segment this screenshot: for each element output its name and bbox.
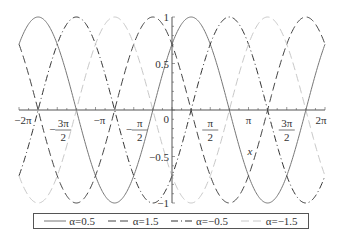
- legend-label: α=1.5: [133, 215, 159, 227]
- svg-text:−: −: [126, 123, 132, 135]
- svg-text:3π: 3π: [58, 117, 70, 129]
- legend-item: α=1.5: [108, 215, 159, 227]
- legend-item: α=0.5: [44, 215, 95, 227]
- legend-label: α=0.5: [69, 215, 95, 227]
- legend-label: α=−1.5: [266, 215, 298, 227]
- svg-text:π: π: [207, 117, 213, 129]
- svg-text:−π: −π: [94, 114, 106, 126]
- solid-line-icon: [44, 218, 66, 224]
- svg-text:−0.5: −0.5: [149, 151, 169, 163]
- legend-item: α=−1.5: [241, 215, 298, 227]
- dashdot-line-icon: [171, 218, 193, 224]
- legend-item: α=−0.5: [171, 215, 228, 227]
- svg-text:1: 1: [164, 11, 170, 23]
- svg-text:2: 2: [284, 131, 290, 143]
- svg-text:2π: 2π: [315, 114, 327, 126]
- svg-text:2: 2: [61, 131, 67, 143]
- svg-text:2: 2: [208, 131, 214, 143]
- legend: α=0.5 α=1.5 α=−0.5 α=−1.5: [33, 213, 309, 229]
- legend-label: α=−0.5: [196, 215, 228, 227]
- chart-canvas: 10.50−0.5−1−2π−ππ2π−3π2−π2π23π2x: [0, 0, 342, 242]
- svg-text:3π: 3π: [281, 117, 293, 129]
- dashed-line-icon: [108, 218, 130, 224]
- svg-text:π: π: [246, 114, 252, 126]
- svg-text:0: 0: [164, 113, 170, 125]
- svg-text:0.5: 0.5: [155, 58, 169, 70]
- svg-text:2: 2: [137, 131, 143, 143]
- light-dashed-line-icon: [241, 218, 263, 224]
- svg-text:−2π: −2π: [14, 114, 32, 126]
- svg-text:π: π: [137, 117, 143, 129]
- svg-text:−: −: [49, 123, 55, 135]
- svg-text:−1: −1: [157, 197, 169, 209]
- x-axis-label: x: [247, 145, 253, 157]
